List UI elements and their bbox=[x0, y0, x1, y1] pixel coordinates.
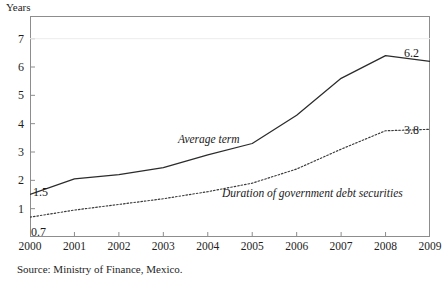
x-tick-label-2004: 2004 bbox=[196, 240, 219, 253]
value-label-duration-start: 0.7 bbox=[31, 226, 46, 238]
y-tick-label-6: 6 bbox=[18, 61, 24, 73]
y-axis-tick-labels: 7 6 5 4 3 2 1 bbox=[8, 16, 24, 237]
series-label-average-term: Average term bbox=[178, 133, 240, 146]
x-tick-label-2001: 2001 bbox=[63, 240, 86, 253]
x-tick-label-2002: 2002 bbox=[107, 240, 130, 253]
series-line-average-term bbox=[30, 56, 430, 195]
series-label-duration: Duration of government debt securities bbox=[222, 187, 403, 200]
plot-area bbox=[30, 16, 430, 237]
chart-page: Years 7 6 5 4 3 2 1 20002001200220032004… bbox=[0, 0, 442, 283]
x-tick-label-2007: 2007 bbox=[330, 240, 353, 253]
x-tick-label-2008: 2008 bbox=[374, 240, 397, 253]
y-tick-label-3: 3 bbox=[18, 146, 24, 158]
source-note: Source: Ministry of Finance, Mexico. bbox=[17, 263, 183, 276]
x-axis-ticks bbox=[31, 232, 430, 237]
y-axis-ticks bbox=[30, 39, 35, 209]
x-axis-tick-labels: 2000200120022003200420052006200720082009 bbox=[30, 240, 430, 256]
x-tick-label-2003: 2003 bbox=[152, 240, 175, 253]
y-tick-label-4: 4 bbox=[18, 118, 24, 130]
y-axis-unit-label: Years bbox=[6, 1, 31, 14]
x-tick-label-2009: 2009 bbox=[419, 240, 442, 253]
value-label-average-end: 6.2 bbox=[404, 47, 419, 59]
x-tick-label-2005: 2005 bbox=[241, 240, 264, 253]
y-tick-label-5: 5 bbox=[18, 89, 24, 101]
value-label-average-start: 1.5 bbox=[33, 186, 48, 198]
value-label-duration-end: 3.8 bbox=[404, 124, 419, 136]
y-tick-label-2: 2 bbox=[18, 174, 24, 186]
chart-canvas bbox=[30, 16, 430, 237]
y-tick-label-7: 7 bbox=[18, 33, 24, 45]
y-tick-label-1: 1 bbox=[18, 203, 24, 215]
x-tick-label-2006: 2006 bbox=[285, 240, 308, 253]
x-tick-label-2000: 2000 bbox=[19, 240, 42, 253]
